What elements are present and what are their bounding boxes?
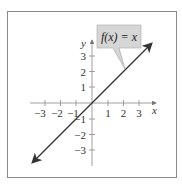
function-line-upper: [92, 44, 151, 103]
y-axis-label: y: [80, 37, 86, 49]
callout-pointer: [113, 48, 125, 69]
function-label: f(x) = x: [101, 30, 138, 44]
x-tick-label: −3: [34, 107, 46, 119]
x-tick-label: 2: [121, 107, 127, 119]
y-tick-label: −3: [74, 144, 86, 156]
function-graph: −3 −2 −1 1 2 3 x 3 2 1 −1 −2 −3 y f(x) =…: [0, 0, 182, 185]
x-tick-label: 1: [105, 107, 111, 119]
x-tick-label: 3: [136, 107, 142, 119]
y-tick-label: 2: [81, 66, 87, 78]
y-tick-label: −2: [74, 129, 86, 141]
y-tick-label: 3: [81, 50, 87, 62]
x-axis-label: x: [151, 104, 157, 116]
y-tick-label: 1: [81, 81, 87, 93]
x-tick-label: −2: [51, 107, 63, 119]
